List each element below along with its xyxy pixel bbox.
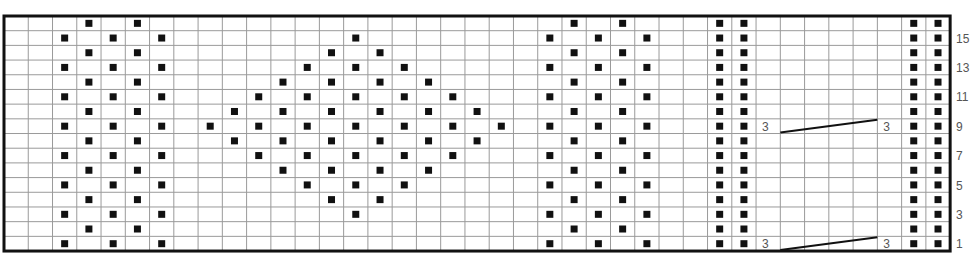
purl-dot-icon — [377, 49, 384, 56]
purl-dot-icon — [716, 20, 723, 27]
purl-dot-icon — [85, 20, 92, 27]
purl-dot-icon — [740, 93, 747, 100]
purl-dot-icon — [716, 152, 723, 159]
purl-dot-icon — [910, 123, 917, 130]
purl-dot-icon — [255, 93, 262, 100]
purl-dot-icon — [740, 137, 747, 144]
purl-dot-icon — [377, 167, 384, 174]
purl-dot-icon — [110, 123, 117, 130]
purl-dot-icon — [546, 123, 553, 130]
purl-dot-icon — [643, 64, 650, 71]
purl-dot-icon — [935, 64, 942, 71]
purl-dot-icon — [595, 211, 602, 218]
row-number-label: 7 — [956, 149, 976, 163]
purl-dot-icon — [377, 108, 384, 115]
purl-dot-icon — [740, 49, 747, 56]
purl-dot-icon — [328, 49, 335, 56]
purl-dot-icon — [134, 196, 141, 203]
purl-dot-icon — [134, 226, 141, 233]
purl-dot-icon — [619, 167, 626, 174]
purl-dot-icon — [449, 152, 456, 159]
purl-dot-icon — [401, 123, 408, 130]
purl-dot-icon — [158, 152, 165, 159]
cable-count-label: 3 — [762, 120, 769, 134]
purl-dot-icon — [643, 240, 650, 247]
purl-dot-icon — [571, 79, 578, 86]
purl-dot-icon — [546, 181, 553, 188]
purl-dot-icon — [571, 108, 578, 115]
purl-dot-icon — [110, 181, 117, 188]
purl-dot-icon — [110, 64, 117, 71]
purl-dot-icon — [546, 93, 553, 100]
purl-dot-icon — [304, 152, 311, 159]
row-number-label: 11 — [956, 90, 976, 104]
purl-dot-icon — [134, 108, 141, 115]
purl-dot-icon — [910, 108, 917, 115]
purl-dot-icon — [352, 64, 359, 71]
row-number-label: 3 — [956, 208, 976, 222]
cable-count-label: 3 — [762, 237, 769, 251]
purl-dot-icon — [740, 152, 747, 159]
purl-dot-icon — [595, 93, 602, 100]
purl-dot-icon — [377, 196, 384, 203]
purl-dot-icon — [255, 123, 262, 130]
purl-dot-icon — [328, 167, 335, 174]
purl-dot-icon — [619, 49, 626, 56]
purl-dot-icon — [619, 137, 626, 144]
purl-dot-icon — [935, 35, 942, 42]
purl-dot-icon — [110, 240, 117, 247]
purl-dot-icon — [716, 35, 723, 42]
purl-dot-icon — [595, 181, 602, 188]
row-number-label: 1 — [956, 237, 976, 251]
row-number-label: 13 — [956, 61, 976, 75]
purl-dot-icon — [158, 35, 165, 42]
purl-dot-icon — [910, 196, 917, 203]
purl-dot-icon — [328, 137, 335, 144]
purl-dot-icon — [619, 108, 626, 115]
purl-dot-icon — [255, 152, 262, 159]
purl-dot-icon — [910, 93, 917, 100]
purl-dot-icon — [158, 240, 165, 247]
purl-dot-icon — [158, 64, 165, 71]
purl-dot-icon — [643, 152, 650, 159]
purl-dot-icon — [110, 211, 117, 218]
purl-dot-icon — [619, 226, 626, 233]
purl-dot-icon — [546, 64, 553, 71]
purl-dot-icon — [740, 79, 747, 86]
purl-dot-icon — [158, 123, 165, 130]
purl-dot-icon — [352, 181, 359, 188]
purl-dot-icon — [643, 211, 650, 218]
purl-dot-icon — [935, 240, 942, 247]
purl-dot-icon — [279, 167, 286, 174]
purl-dot-icon — [279, 79, 286, 86]
purl-dot-icon — [61, 64, 68, 71]
purl-dot-icon — [352, 152, 359, 159]
purl-dot-icon — [546, 152, 553, 159]
purl-dot-icon — [85, 49, 92, 56]
purl-dot-icon — [401, 181, 408, 188]
row-number-label: 15 — [956, 32, 976, 46]
purl-dot-icon — [85, 226, 92, 233]
chart-grid: 3333 — [4, 16, 950, 251]
purl-dot-icon — [110, 152, 117, 159]
purl-dot-icon — [935, 196, 942, 203]
purl-dot-icon — [910, 20, 917, 27]
purl-dot-icon — [716, 123, 723, 130]
purl-dot-icon — [546, 240, 553, 247]
purl-dot-icon — [134, 167, 141, 174]
purl-dot-icon — [716, 240, 723, 247]
purl-dot-icon — [474, 137, 481, 144]
purl-dot-icon — [595, 64, 602, 71]
purl-dot-icon — [910, 64, 917, 71]
cable-count-label: 3 — [883, 237, 890, 251]
purl-dot-icon — [619, 20, 626, 27]
purl-dot-icon — [61, 240, 68, 247]
purl-dot-icon — [425, 167, 432, 174]
purl-dot-icon — [595, 240, 602, 247]
purl-dot-icon — [425, 137, 432, 144]
purl-dot-icon — [935, 108, 942, 115]
purl-dot-icon — [740, 167, 747, 174]
purl-dot-icon — [158, 93, 165, 100]
purl-dot-icon — [425, 108, 432, 115]
purl-dot-icon — [910, 35, 917, 42]
